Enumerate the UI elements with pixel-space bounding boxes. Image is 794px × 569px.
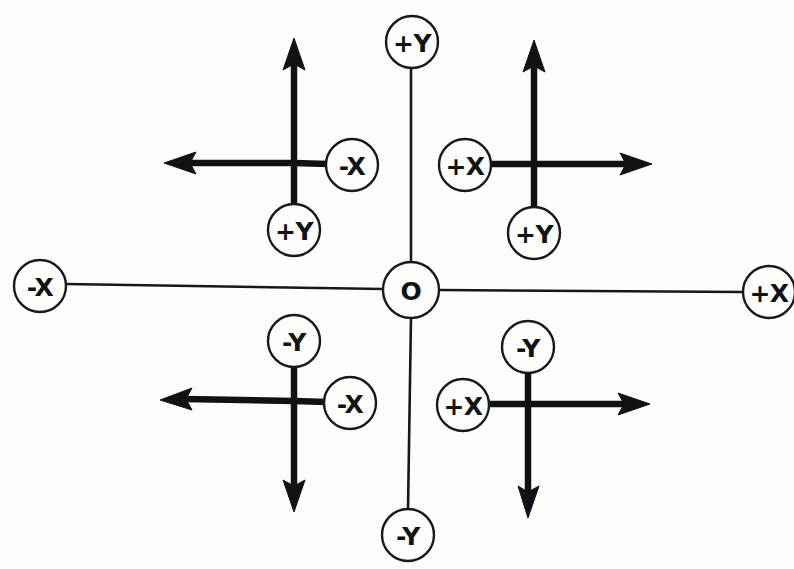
node-label: +Y — [275, 217, 314, 246]
node-label: +Y — [393, 29, 432, 58]
node-label: +X — [443, 392, 482, 421]
global-axis-line-right — [439, 290, 743, 292]
global-axis-line-left — [66, 284, 383, 289]
node-label: -X — [339, 152, 366, 181]
global-axis-node-up: +Y — [386, 16, 438, 68]
origin-node: O — [383, 262, 439, 318]
global-axis-line-down — [408, 318, 411, 509]
frame-bottom-right: -Y +X — [437, 321, 650, 518]
frame-top-right-node-x: +X — [439, 139, 491, 191]
origin-label: O — [401, 277, 422, 306]
frame-top-left-node-y: +Y — [268, 204, 320, 256]
node-label: -Y — [396, 522, 421, 551]
coordinate-axes-diagram: -X +Y +X +Y — [0, 0, 794, 569]
node-label: -Y — [516, 334, 541, 363]
frame-bottom-left: -Y -X — [160, 315, 376, 512]
frame-bottom-left-node-y: -Y — [268, 315, 320, 367]
frame-bottom-left-vector-left-shaft — [184, 399, 294, 401]
node-label: -Y — [282, 328, 307, 357]
frame-top-right: +X +Y — [439, 40, 652, 259]
frame-top-right-node-y: +Y — [508, 207, 560, 259]
node-label: -X — [337, 390, 364, 419]
node-label: -X — [27, 273, 54, 302]
global-axis-node-left: -X — [14, 260, 66, 312]
node-label: +X — [445, 152, 484, 181]
frame-bottom-right-node-y: -Y — [502, 321, 554, 373]
node-label: +Y — [515, 220, 554, 249]
node-label: +X — [749, 279, 788, 308]
frame-top-left-node-x: -X — [326, 139, 378, 191]
global-axis-node-down: -Y — [382, 509, 434, 561]
frame-bottom-left-stub-right — [294, 401, 326, 402]
frame-bottom-left-node-x: -X — [324, 377, 376, 429]
frame-top-left-stub-right — [294, 163, 328, 164]
frame-top-left: -X +Y — [164, 38, 378, 256]
frame-bottom-right-node-x: +X — [437, 379, 489, 431]
global-axis-node-right: +X — [743, 266, 794, 318]
diagram-canvas: -X +Y +X +Y — [0, 0, 794, 569]
